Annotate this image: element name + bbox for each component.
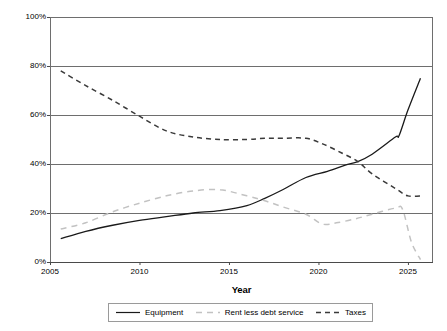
chart-legend: Equipment Rent less debt service Taxes (108, 303, 373, 322)
plot-canvas (0, 0, 447, 331)
legend-swatch-taxes (315, 309, 341, 316)
legend-label-equipment: Equipment (145, 309, 183, 317)
x-tick-label-2020: 2020 (298, 268, 338, 276)
x-tick-label-2025: 2025 (388, 268, 428, 276)
legend-item-rent-less-debt-service: Rent less debt service (195, 309, 304, 317)
legend-item-equipment: Equipment (115, 309, 183, 317)
x-tick-label-2015: 2015 (209, 268, 249, 276)
legend-label-rent-less-debt-service: Rent less debt service (225, 309, 304, 317)
series-line-equipment (61, 78, 421, 238)
series-line-taxes (61, 71, 423, 196)
legend-item-taxes: Taxes (315, 309, 366, 317)
legend-swatch-rent-less-debt-service (195, 309, 221, 316)
legend-label-taxes: Taxes (345, 309, 366, 317)
legend-swatch-equipment (115, 309, 141, 316)
x-tick-label-2005: 2005 (30, 268, 70, 276)
chart-figure: Percentage Contribution to Value 0%20%40… (0, 0, 447, 331)
x-tick-label-2010: 2010 (119, 268, 159, 276)
